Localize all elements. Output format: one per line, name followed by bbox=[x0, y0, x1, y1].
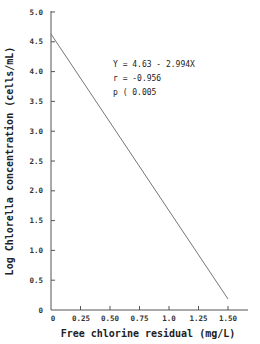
svg-text:1.5: 1.5 bbox=[29, 216, 43, 225]
x-axis-title: Free chlorine residual (mg/L) bbox=[61, 328, 236, 339]
svg-text:1.25: 1.25 bbox=[189, 314, 207, 323]
svg-text:2.0: 2.0 bbox=[29, 186, 43, 195]
svg-text:0.50: 0.50 bbox=[101, 314, 120, 323]
svg-text:0.5: 0.5 bbox=[29, 276, 43, 285]
y-axis-title: Log Chlorella concentration (cells/mL) bbox=[4, 47, 15, 276]
x-ticks bbox=[81, 306, 229, 310]
svg-text:0: 0 bbox=[38, 306, 43, 315]
svg-text:1.50: 1.50 bbox=[219, 314, 238, 323]
y-tick-labels: 5.0 4.5 4.0 3.5 3.0 2.5 2.0 1.5 1.0 0.5 … bbox=[29, 8, 43, 315]
svg-text:1.0: 1.0 bbox=[162, 314, 176, 323]
svg-text:4.5: 4.5 bbox=[29, 37, 43, 46]
regression-annotation: Y = 4.63 - 2.994X r = -0.956 p ( 0.005 bbox=[113, 60, 195, 97]
svg-text:0.75: 0.75 bbox=[130, 314, 148, 323]
svg-text:3.5: 3.5 bbox=[29, 97, 43, 106]
svg-text:3.0: 3.0 bbox=[29, 127, 43, 136]
svg-text:2.5: 2.5 bbox=[29, 157, 43, 166]
svg-text:5.0: 5.0 bbox=[29, 8, 43, 17]
svg-text:Y = 4.63 - 2.994X: Y = 4.63 - 2.994X bbox=[113, 60, 195, 69]
svg-text:0: 0 bbox=[51, 314, 56, 323]
svg-text:4.0: 4.0 bbox=[29, 67, 43, 76]
chart: 5.0 4.5 4.0 3.5 3.0 2.5 2.0 1.5 1.0 0.5 … bbox=[0, 0, 260, 344]
y-ticks bbox=[51, 12, 55, 280]
x-tick-labels: 0 0.25 0.50 0.75 1.0 1.25 1.50 bbox=[51, 314, 238, 323]
svg-text:0.25: 0.25 bbox=[72, 314, 90, 323]
svg-text:1.0: 1.0 bbox=[29, 246, 43, 255]
svg-text:r = -0.956: r = -0.956 bbox=[113, 74, 161, 83]
svg-text:p ( 0.005: p ( 0.005 bbox=[113, 88, 157, 97]
